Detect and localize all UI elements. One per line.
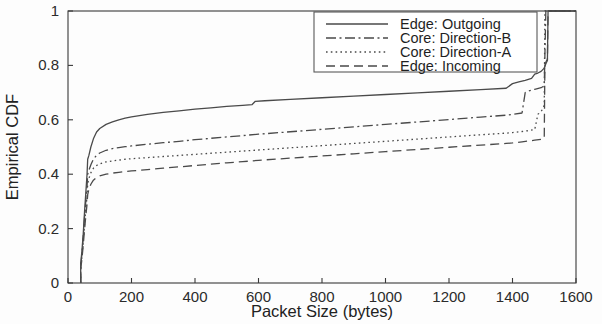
x-tick-label: 1400 <box>496 288 529 305</box>
y-tick-label: 1 <box>51 2 59 19</box>
empirical-cdf-chart: 02004006008001000120014001600 00.20.40.6… <box>0 0 602 324</box>
chart-legend: Edge: OutgoingCore: Direction-BCore: Dir… <box>314 12 537 74</box>
x-tick-label: 1600 <box>559 288 592 305</box>
y-tick-label: 0.8 <box>38 56 59 73</box>
x-tick-label: 0 <box>64 288 72 305</box>
x-tick-label: 400 <box>182 288 207 305</box>
x-axis-title: Packet Size (bytes) <box>251 302 393 320</box>
x-tick-label: 1200 <box>432 288 465 305</box>
y-tick-label: 0.6 <box>38 111 59 128</box>
y-tick-label: 0.4 <box>38 165 59 182</box>
y-axis-title: Empirical CDF <box>3 94 21 200</box>
chart-figure: 02004006008001000120014001600 00.20.40.6… <box>0 0 602 324</box>
y-tick-label: 0 <box>51 274 59 291</box>
legend-label-3: Edge: Incoming <box>400 58 501 74</box>
y-tick-label: 0.2 <box>38 220 59 237</box>
x-tick-label: 200 <box>119 288 144 305</box>
x-axis-ticks: 02004006008001000120014001600 <box>64 278 593 305</box>
